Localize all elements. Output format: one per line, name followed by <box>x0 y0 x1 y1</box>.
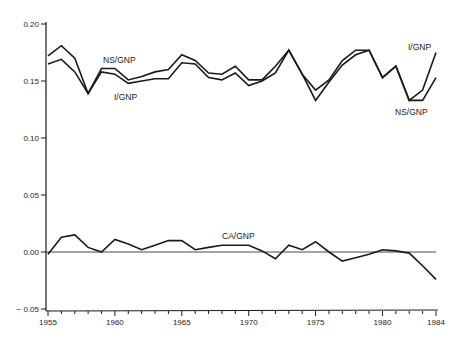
y-tick-label: − 0.05 <box>17 305 40 314</box>
y-tick-label: 0.00 <box>23 248 39 257</box>
series-label-ca-gnp: CA/GNP <box>222 231 255 241</box>
line-chart: 0.200.150.100.050.00− 0.05 1955196019651… <box>0 0 460 350</box>
series-label-ns-gnp: NS/GNP <box>395 107 428 117</box>
x-tick-label: 1955 <box>39 318 57 327</box>
series-label-i-gnp: I/GNP <box>114 92 137 102</box>
x-tick-label: 1980 <box>374 318 392 327</box>
y-tick-label: 0.10 <box>23 134 39 143</box>
y-tick-label: 0.15 <box>23 77 39 86</box>
series-line-ca-gnp <box>48 235 436 280</box>
y-axis: 0.200.150.100.050.00− 0.05 <box>17 20 46 314</box>
series-group <box>48 46 436 280</box>
x-axis: 1955196019651970197519801984 <box>39 310 445 327</box>
x-tick-label: 1970 <box>240 318 258 327</box>
x-axis-line <box>46 310 438 311</box>
series-label-i-gnp: I/GNP <box>408 42 431 52</box>
x-tick-label: 1984 <box>427 318 445 327</box>
x-tick-label: 1965 <box>173 318 191 327</box>
y-tick-label: 0.20 <box>23 20 39 29</box>
series-label-ns-gnp: NS/GNP <box>103 55 136 65</box>
x-tick-label: 1975 <box>307 318 325 327</box>
series-labels: NS/GNPNS/GNPI/GNPI/GNPCA/GNP <box>103 42 431 241</box>
y-tick-label: 0.05 <box>23 191 39 200</box>
x-tick-label: 1960 <box>106 318 124 327</box>
